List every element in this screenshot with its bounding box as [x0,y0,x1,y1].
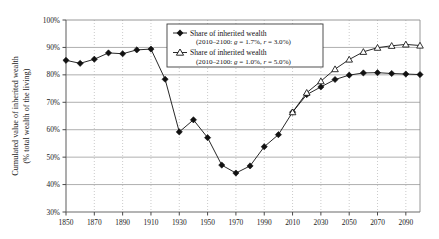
x-tick-label-1850: 1850 [59,218,74,227]
y-tick-label-80: 80% [46,70,60,79]
legend-label-0: Share of inherited wealth [190,29,267,38]
y-axis-title-line1: Cumulated value of inherited wealth [11,56,20,176]
legend-label-1: Share of inherited wealth [190,48,267,57]
x-tick-label-1910: 1910 [144,218,159,227]
y-axis-title-line2: (% total wealth of the living) [22,68,31,163]
x-tick-label-2010: 2010 [285,218,300,227]
y-tick-label-50: 50% [46,153,60,162]
y-tick-label-90: 90% [46,43,60,52]
y-tick-label-40: 40% [46,180,60,189]
x-tick-label-2050: 2050 [342,218,357,227]
legend-detail-1: (2010–2100: g = 1.0%, r = 5.0%) [196,58,292,66]
y-tick-label-60: 60% [46,125,60,134]
legend: Share of inherited wealth (2010–2100: g … [167,24,323,67]
y-tick-label-100: 100% [43,16,60,25]
x-tick-label-2030: 2030 [313,218,328,227]
x-tick-label-1970: 1970 [229,218,244,227]
x-tick-label-2090: 2090 [398,218,413,227]
x-tick-label-1950: 1950 [200,218,215,227]
x-tick-label-2070: 2070 [370,218,385,227]
y-tick-label-30: 30% [46,208,60,217]
x-tick-label-1930: 1930 [172,218,187,227]
x-tick-label-1990: 1990 [257,218,272,227]
inherited-wealth-line-chart: 100%90%80%70%60%50%40%30% 18501870189019… [0,0,439,239]
y-tick-label-70: 70% [46,98,60,107]
x-tick-label-1890: 1890 [115,218,130,227]
chart-figure: 100%90%80%70%60%50%40%30% 18501870189019… [0,0,439,239]
x-tick-label-1870: 1870 [87,218,102,227]
legend-detail-0: (2010–2100: g = 1.7%, r = 3.0%) [196,38,292,46]
